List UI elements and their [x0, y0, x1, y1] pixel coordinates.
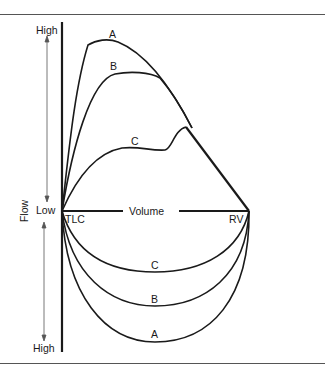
inspiratory-curve-c-label: C — [151, 260, 159, 271]
flow-high-bottom-label: High — [33, 343, 55, 354]
flow-high-top-label: High — [36, 25, 58, 36]
inspiratory-curve-a — [62, 211, 249, 342]
inspiratory-curve-b-label: B — [151, 294, 158, 305]
expiratory-descending-limb — [186, 127, 249, 211]
tlc-label: TLC — [65, 214, 85, 225]
flow-low-label: Low — [36, 205, 55, 216]
volume-axis-title: Volume — [129, 206, 164, 217]
flow-volume-diagram — [0, 0, 325, 373]
expiratory-curve-b-label: B — [110, 61, 117, 72]
expiratory-curve-a-label: A — [109, 29, 116, 40]
flow-arrow-bottom — [42, 222, 46, 341]
rv-label: RV — [229, 214, 243, 225]
flow-arrow-top — [45, 36, 49, 202]
inspiratory-curve-a-label: A — [151, 329, 158, 340]
expiratory-curve-c — [62, 127, 186, 211]
expiratory-curve-c-label: C — [131, 136, 139, 147]
flow-axis-title: Flow — [18, 200, 30, 222]
